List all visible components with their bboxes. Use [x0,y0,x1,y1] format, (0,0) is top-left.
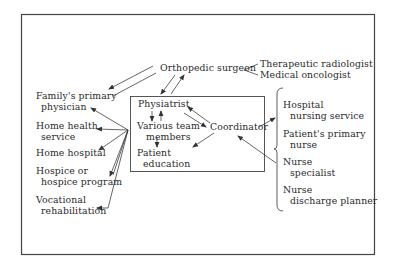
node-label-line1: Hospice or [36,166,122,177]
node-label-line1: Patient's primary [283,129,366,140]
node-label-line1: Nurse [283,185,377,196]
node-various-team-members: Various team members [137,121,200,142]
node-label-line2: hospice program [36,177,122,188]
node-therapeutic-radiologist: Therapeutic radiologist [260,59,373,70]
node-coordinator: Coordinator [210,122,268,133]
node-physiatrist: Physiatrist [138,99,190,110]
node-patient-primary-nurse: Patient's primary nurse [283,129,366,150]
education-label-line1: Patient [137,148,190,159]
node-label-line2: nurse [283,140,366,151]
node-label-line2: specialist [283,168,335,179]
node-home-health-service: Home health service [36,121,98,142]
node-label-line1: Vocational [36,195,106,206]
coordinator-label: Coordinator [210,122,268,133]
node-patient-education: Patient education [137,148,190,169]
arrow-ortho-to-family [109,66,153,89]
node-orthopedic-surgeon: Orthopedic surgeon [160,63,256,74]
orthopedic-surgeon-label: Orthopedic surgeon [160,63,256,74]
care-team-diagram: Orthopedic surgeon Therapeutic radiologi… [0,0,395,267]
node-medical-oncologist: Medical oncologist [260,70,351,81]
node-label-line2: service [36,132,98,143]
right-bracket [274,88,283,211]
node-vocational-rehabilitation: Vocational rehabilitation [36,195,106,216]
education-label-line2: education [137,159,190,170]
node-home-hospital: Home hospital [36,148,106,159]
node-label-line1: Home hospital [36,148,106,159]
node-label-line1: Family's primary [36,91,117,102]
node-label-line2: discharge planner [283,196,377,207]
node-nurse-specialist: Nurse specialist [283,157,335,178]
team-label-line1: Various team [137,121,200,132]
node-family-primary-physician: Family's primary physician [36,91,117,112]
therapeutic-radiologist-label: Therapeutic radiologist [260,59,373,70]
node-hospital-nursing-service: Hospital nursing service [283,100,364,121]
line-family-to-ortho [113,73,156,96]
physiatrist-label: Physiatrist [138,99,190,110]
node-label-line2: rehabilitation [36,206,106,217]
node-label-line2: physician [36,102,117,113]
node-nurse-discharge-planner: Nurse discharge planner [283,185,377,206]
team-label-line2: members [137,132,200,143]
arrow-nurse-specialist-to-coordinator [238,136,276,163]
node-hospice-program: Hospice or hospice program [36,166,122,187]
node-label-line1: Hospital [283,100,364,111]
arrow-hub-to-home-health [97,129,128,130]
node-label-line1: Home health [36,121,98,132]
medical-oncologist-label: Medical oncologist [260,70,351,81]
node-label-line2: nursing service [283,111,364,122]
node-label-line1: Nurse [283,157,335,168]
